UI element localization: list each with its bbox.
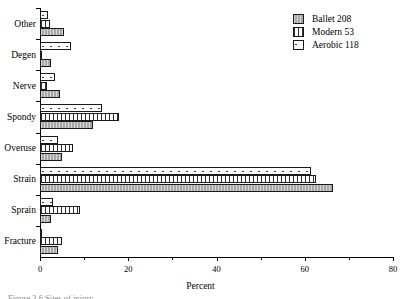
bar-ballet-nerve: [40, 90, 60, 98]
x-tick: [40, 257, 41, 261]
legend-label: Ballet 208: [312, 14, 351, 24]
y-axis-label-spondy: Spondy: [7, 112, 36, 122]
legend-label: Aerobic 118: [312, 40, 359, 50]
y-tick: [36, 8, 40, 9]
y-axis-label-nerve: Nerve: [13, 81, 36, 91]
bar-modern-fracture: [40, 237, 62, 245]
bar-ballet-overuse: [40, 153, 62, 161]
bar-ballet-spondy: [40, 121, 93, 129]
bar-ballet-sprain: [40, 215, 51, 223]
x-tick: [393, 257, 394, 261]
bar-aerobic-sprain: [40, 198, 53, 206]
bar-ballet-fracture: [40, 246, 58, 254]
bar-ballet-degen: [40, 59, 51, 67]
bar-modern-overuse: [40, 144, 73, 152]
x-tick: [305, 257, 306, 261]
legend-item: Ballet 208: [293, 12, 359, 25]
bar-ballet-other: [40, 28, 64, 36]
y-tick: [36, 70, 40, 71]
bar-aerobic-overuse: [40, 136, 58, 144]
y-axis-label-fracture: Fracture: [4, 236, 36, 246]
x-minor-tick: [349, 257, 350, 260]
figure-caption: Figure 3.6 Sites of injury: [8, 293, 93, 299]
x-tick-label: 80: [389, 264, 398, 274]
legend-swatch-aerobic: [293, 40, 304, 50]
x-tick: [128, 257, 129, 261]
y-tick: [36, 39, 40, 40]
x-tick: [217, 257, 218, 261]
bar-aerobic-fracture: [40, 229, 42, 237]
bar-aerobic-other: [40, 11, 48, 19]
y-axis-label-other: Other: [14, 19, 36, 29]
x-minor-tick: [84, 257, 85, 260]
bar-modern-nerve: [40, 82, 47, 90]
x-tick-label: 20: [124, 264, 133, 274]
legend-item: Modern 53: [293, 25, 359, 38]
y-tick: [36, 133, 40, 134]
chart-figure: 020406080 FractureSprainStrainOveruseSpo…: [0, 0, 401, 299]
x-minor-tick: [261, 257, 262, 260]
x-axis-title: Percent: [0, 281, 401, 291]
bar-modern-degen: [40, 51, 42, 59]
bar-modern-spondy: [40, 113, 119, 121]
y-axis-label-strain: Strain: [13, 174, 36, 184]
bar-aerobic-nerve: [40, 73, 55, 81]
bar-aerobic-degen: [40, 42, 71, 50]
chart-legend: Ballet 208Modern 53Aerobic 118: [293, 12, 359, 51]
bar-modern-other: [40, 20, 50, 28]
y-tick: [36, 164, 40, 165]
y-axis-label-degen: Degen: [11, 50, 36, 60]
legend-item: Aerobic 118: [293, 38, 359, 51]
legend-swatch-ballet: [293, 14, 304, 24]
bar-aerobic-strain: [40, 167, 311, 175]
legend-label: Modern 53: [312, 27, 354, 37]
legend-swatch-modern: [293, 27, 304, 37]
x-tick-label: 0: [38, 264, 42, 274]
x-tick-label: 40: [212, 264, 221, 274]
y-axis-label-sprain: Sprain: [11, 205, 36, 215]
y-axis-label-overuse: Overuse: [4, 143, 36, 153]
y-tick: [36, 101, 40, 102]
y-tick: [36, 195, 40, 196]
bar-aerobic-spondy: [40, 104, 102, 112]
x-minor-tick: [172, 257, 173, 260]
bar-modern-strain: [40, 175, 316, 183]
x-tick-label: 60: [301, 264, 310, 274]
bar-modern-sprain: [40, 206, 80, 214]
y-tick: [36, 226, 40, 227]
bar-ballet-strain: [40, 184, 333, 192]
